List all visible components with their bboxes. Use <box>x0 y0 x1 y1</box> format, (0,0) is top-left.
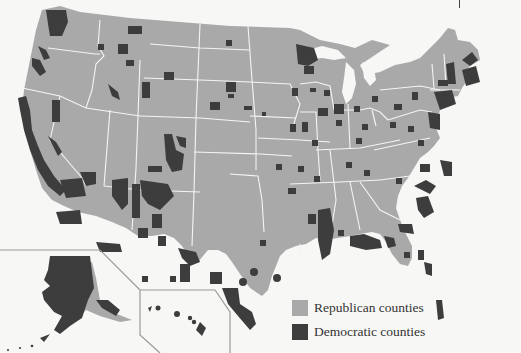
contiguous-us-land <box>22 6 480 296</box>
map-legend: Republican counties Democratic counties <box>292 296 425 344</box>
hawaii-inset <box>148 306 206 337</box>
republican-swatch <box>292 300 308 316</box>
us-county-map <box>0 0 521 353</box>
legend-item-republican: Republican counties <box>292 296 425 320</box>
inset-frame <box>0 250 230 353</box>
legend-label: Democratic counties <box>314 324 425 340</box>
alaska-inset <box>7 256 132 351</box>
democratic-swatch <box>292 324 308 340</box>
legend-label: Republican counties <box>314 300 424 316</box>
legend-item-democratic: Democratic counties <box>292 320 425 344</box>
